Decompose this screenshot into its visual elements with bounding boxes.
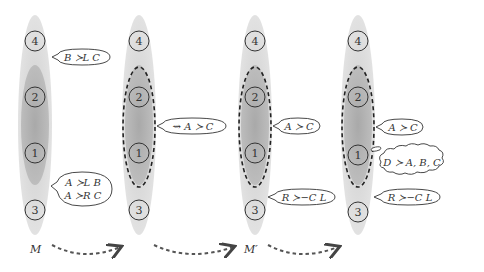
inner-region [125,65,153,185]
svg-text:⇝ A ≻ C: ⇝ A ≻ C [173,121,214,132]
annotation-bubble-a-pref-c: A ≻ C [273,118,320,134]
annotation-bubble-a-pref-l-b-a-pref-r-c: A ≻L B A ≻R C [51,172,112,206]
svg-text:D ≻ A, B, C: D ≻ A, B, C [382,157,441,168]
svg-text:2: 2 [252,91,259,104]
transition-arrow-2 [154,245,233,254]
annotation-bubble-a-pref-c: A ≻ C [376,119,423,135]
svg-text:A ≻ C: A ≻ C [283,121,314,132]
transition-arrow-1 [52,245,120,254]
svg-text:2: 2 [355,91,362,104]
model-column-4: 4 2 1 3 A ≻ C D ≻ A, B, C R ≻−C L [341,15,443,235]
kripke-model-sequence-diagram: 4 2 1 3 B ≻L C A ≻L B A ≻R C [0,0,484,272]
svg-text:R ≻−C L: R ≻−C L [387,192,433,203]
svg-text:1: 1 [252,147,259,160]
annotation-bubble-upgrade-a-pref-c: ⇝ A ≻ C [157,118,226,134]
svg-text:A ≻ C: A ≻ C [387,122,418,133]
svg-text:3: 3 [252,204,259,217]
annotation-bubble-r-pref-not-c-l: R ≻−C L [374,189,440,205]
model-column-3: 4 2 1 3 A ≻ C R ≻−C L [238,15,335,235]
svg-text:4: 4 [252,35,259,48]
svg-text:R ≻−C L: R ≻−C L [281,192,327,203]
svg-text:2: 2 [32,91,39,104]
svg-text:3: 3 [136,204,143,217]
annotation-bubble-b-pref-l-c: B ≻L C [52,49,110,65]
inner-region [344,65,372,185]
svg-text:A ≻L B: A ≻L B [64,177,101,188]
svg-text:A ≻R C: A ≻R C [64,190,102,201]
svg-text:1: 1 [32,147,39,160]
inner-region [241,65,269,185]
inner-region [21,65,49,185]
annotation-cloud-d-pref-abc: D ≻ A, B, C [380,144,444,175]
svg-text:3: 3 [32,204,39,217]
transition-arrow-3 [268,245,338,254]
svg-text:3: 3 [355,206,362,219]
svg-text:4: 4 [136,35,143,48]
annotation-bubble-r-pref-not-c-l: R ≻−C L [268,189,335,205]
model-column-1: 4 2 1 3 B ≻L C A ≻L B A ≻R C [18,15,112,235]
svg-text:2: 2 [136,91,143,104]
model-label-m: M [29,243,42,256]
svg-text:4: 4 [355,35,362,48]
model-column-2: 4 2 1 3 ⇝ A ≻ C [122,15,226,235]
svg-text:B ≻L C: B ≻L C [63,52,100,63]
svg-text:1: 1 [136,147,143,160]
svg-text:4: 4 [32,35,39,48]
model-label-m-prime: M′ [243,243,258,256]
svg-text:1: 1 [355,149,362,162]
